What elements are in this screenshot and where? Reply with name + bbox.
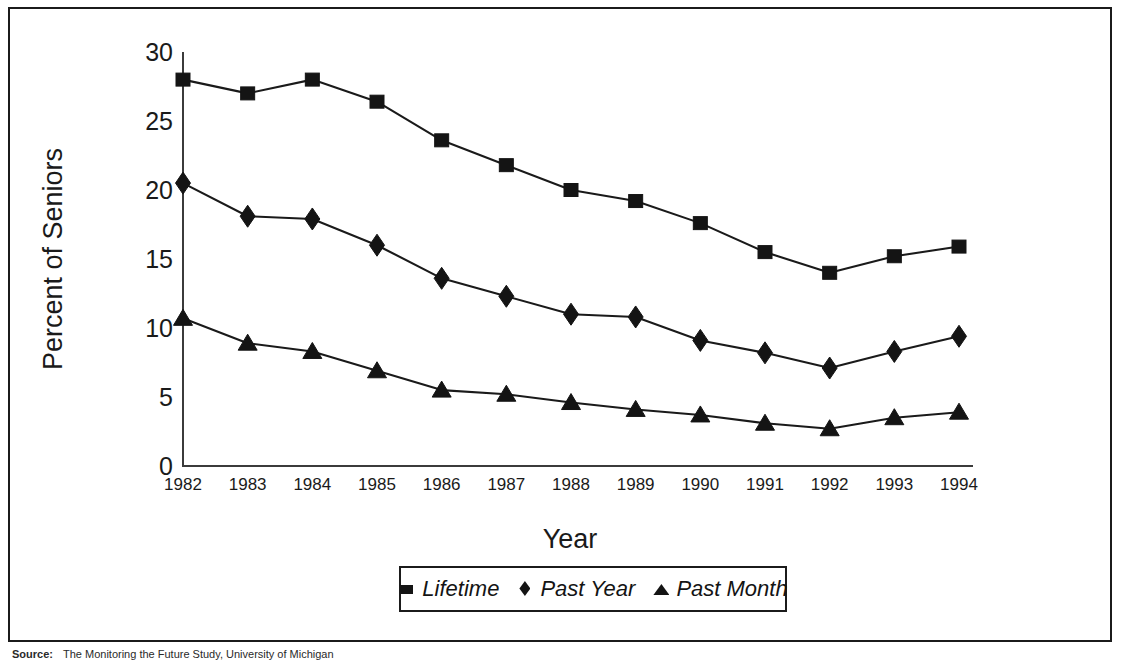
data-point-square [305,73,319,86]
y-axis-tick-labels: 051015202530 [145,38,173,480]
y-tick-label: 30 [145,38,173,66]
data-point-triangle [238,334,257,350]
data-point-diamond [822,357,837,379]
x-axis-tick-labels: 1982198319841985198619871988198919901991… [164,475,978,494]
data-point-square [370,95,384,108]
x-tick-label: 1986 [423,475,461,494]
x-axis-title: Year [543,524,598,554]
data-point-square [887,250,901,263]
square-marker-icon [398,580,416,598]
y-tick-label: 25 [145,107,173,135]
y-tick-label: 20 [145,176,173,204]
series-line [183,80,959,273]
x-tick-label: 1984 [293,475,331,494]
data-point-square [176,73,190,86]
data-point-square [952,240,966,253]
x-tick-label: 1994 [940,475,978,494]
y-tick-label: 15 [145,245,173,273]
line-chart: 051015202530 198219831984198519861987198… [0,0,1122,661]
triangle-marker-icon [652,580,670,598]
legend-label-past-year: Past Year [540,576,635,602]
data-point-square [435,134,449,147]
data-point-triangle [950,403,969,419]
series-lifetime [176,73,966,279]
series-line [183,318,959,428]
data-point-square [564,184,578,197]
x-tick-label: 1988 [552,475,590,494]
data-point-diamond [693,329,708,351]
data-point-square [241,87,255,100]
data-point-diamond [370,234,385,256]
diamond-marker-icon [516,580,534,598]
data-point-diamond [887,340,902,362]
x-tick-label: 1983 [229,475,267,494]
chart-legend: Lifetime Past Year Past Month [399,566,787,612]
legend-item-past-year[interactable]: Past Year [516,576,635,602]
legend-item-lifetime[interactable]: Lifetime [398,576,499,602]
data-point-diamond [564,303,579,325]
series-past-month [174,309,969,435]
legend-label-lifetime: Lifetime [422,576,499,602]
series-past-year [176,172,967,379]
x-tick-label: 1991 [746,475,784,494]
plot-area: 051015202530 198219831984198519861987198… [0,0,1122,661]
source-label: Source: [12,648,53,661]
y-tick-label: 10 [145,314,173,342]
data-point-diamond [240,205,255,227]
data-point-triangle [174,309,193,325]
data-point-square [758,246,772,259]
x-tick-label: 1982 [164,475,202,494]
x-tick-label: 1989 [617,475,655,494]
data-point-diamond [952,325,967,347]
source-note: Source: The Monitoring the Future Study,… [12,648,334,661]
data-point-diamond [758,342,773,364]
data-point-diamond [305,208,320,230]
data-point-diamond [176,172,191,194]
x-tick-label: 1990 [681,475,719,494]
data-point-diamond [434,267,449,289]
x-tick-label: 1993 [875,475,913,494]
y-axis-title: Percent of Seniors [38,148,68,370]
x-tick-label: 1992 [811,475,849,494]
data-point-diamond [499,285,514,307]
data-point-square [499,159,513,172]
x-tick-label: 1985 [358,475,396,494]
source-text: The Monitoring the Future Study, Univers… [63,648,334,661]
data-point-diamond [628,306,643,328]
data-point-square [693,217,707,230]
figure-panel: 051015202530 198219831984198519861987198… [0,0,1122,661]
data-series-group [174,73,969,436]
legend-item-past-month[interactable]: Past Month [652,576,787,602]
series-line [183,183,959,368]
data-point-square [823,266,837,279]
legend-label-past-month: Past Month [676,576,787,602]
x-tick-label: 1987 [487,475,525,494]
data-point-square [629,195,643,208]
y-tick-label: 5 [159,383,173,411]
